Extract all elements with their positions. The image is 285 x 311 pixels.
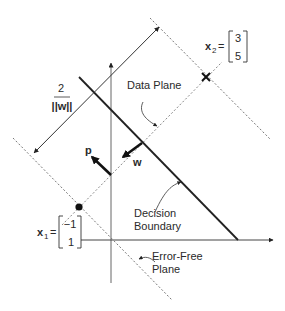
svg-text:x: x	[205, 40, 212, 52]
svg-text:x: x	[37, 226, 44, 238]
w-vector-arrow	[123, 143, 142, 157]
error-free-plane	[13, 138, 172, 300]
x2-equation: x 2 = 3 5	[205, 31, 247, 62]
error-free-label-2: Plane	[152, 263, 180, 275]
decision-boundary-label-1: Decision	[134, 207, 176, 219]
x2-cross-marker	[202, 73, 210, 81]
svg-text:3: 3	[235, 32, 241, 44]
x1-dot-marker	[75, 203, 82, 210]
svg-text:=: =	[50, 226, 56, 238]
margin-denominator: ||w||	[52, 100, 73, 112]
p-label: p	[85, 144, 92, 156]
svg-text:=: =	[218, 40, 224, 52]
w-label: w	[132, 156, 142, 168]
svg-text:1: 1	[44, 232, 49, 241]
x1-equation: x 1 = −1 1	[37, 216, 81, 248]
error-free-label-1: Error-Free	[152, 250, 203, 262]
p-vector-arrow	[92, 157, 111, 175]
decision-boundary-label-2: Boundary	[134, 220, 182, 232]
data-plane-label: Data Plane	[127, 79, 181, 91]
svg-text:−1: −1	[64, 218, 77, 230]
svm-diagram: 2 ||w|| Data Plane p w Decision Boundary…	[0, 0, 285, 311]
svg-text:5: 5	[235, 50, 241, 62]
svg-text:1: 1	[68, 236, 74, 248]
data-plane-leader	[141, 102, 157, 126]
svg-text:2: 2	[212, 46, 217, 55]
margin-numerator: 2	[58, 82, 64, 94]
